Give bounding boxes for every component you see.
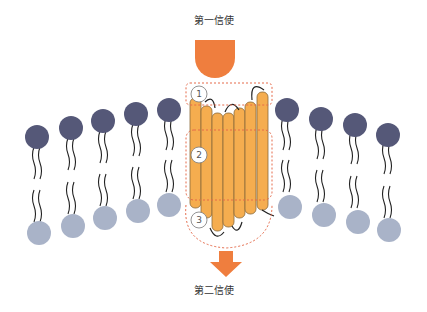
- lipid-heads-inner-left: [27, 193, 181, 245]
- down-arrow-icon: [210, 251, 242, 277]
- binding-pocket: [202, 88, 236, 105]
- region-3-badge: 3: [191, 212, 207, 228]
- svg-text:1: 1: [196, 89, 202, 99]
- svg-text:3: 3: [196, 215, 202, 225]
- lipid-heads-inner-right: [278, 195, 401, 242]
- svg-text:2: 2: [196, 150, 202, 160]
- ligand-icon: [195, 40, 235, 78]
- membrane-receptor-diagram: 1 2 3: [0, 0, 427, 312]
- region-1-badge: 1: [191, 86, 207, 102]
- region-2-badge: 2: [191, 147, 207, 163]
- lipid-heads-outer-right: [275, 98, 400, 147]
- lipid-heads-outer-left: [25, 98, 181, 149]
